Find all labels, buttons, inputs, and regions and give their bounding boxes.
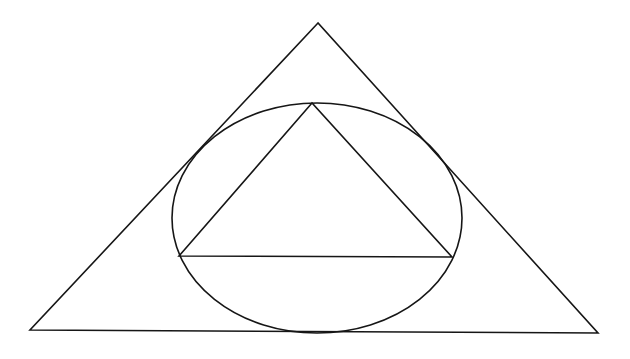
diagram-canvas (0, 0, 630, 359)
inscribed-ellipse (172, 103, 462, 333)
outer-triangle (30, 23, 598, 333)
geometry-figure (0, 0, 630, 359)
